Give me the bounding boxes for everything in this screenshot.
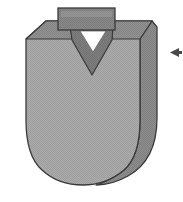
illustration-canvas: Shield Vest Illustration Grayscale 3D sh… — [0, 0, 183, 202]
vest-shield-figure — [0, 0, 183, 202]
collar-tab — [58, 8, 115, 30]
edge-arrow-marker[interactable] — [170, 48, 182, 57]
